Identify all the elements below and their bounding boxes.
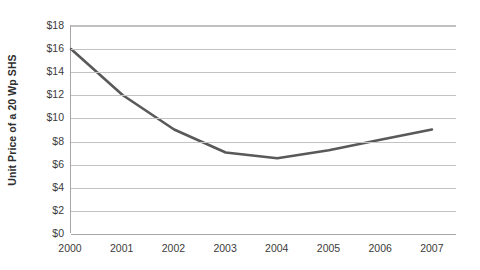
gridline — [71, 49, 456, 50]
y-tick-label: $8 — [52, 135, 64, 147]
plot-area — [70, 25, 456, 233]
y-axis-title: Unit Price of a 20 Wp SHS — [0, 0, 24, 240]
y-tick-label: $4 — [52, 181, 64, 193]
y-axis-title-text: Unit Price of a 20 Wp SHS — [6, 54, 18, 185]
gridline — [71, 165, 456, 166]
y-tick-label: $2 — [52, 204, 64, 216]
y-tick-label: $14 — [46, 65, 64, 77]
x-tick-label: 2004 — [265, 242, 288, 254]
gridline — [71, 95, 456, 96]
x-tick-label: 2001 — [110, 242, 133, 254]
x-tick-label: 2002 — [162, 242, 185, 254]
x-tick-label: 2005 — [317, 242, 340, 254]
x-axis-tick-labels: 20002001200220032004200520062007 — [70, 238, 456, 262]
chart-figure: Unit Price of a 20 Wp SHS $0$2$4$6$8$10$… — [0, 0, 480, 270]
gridline — [71, 234, 456, 235]
y-tick-label: $6 — [52, 158, 64, 170]
x-tick-label: 2006 — [368, 242, 391, 254]
gridline — [71, 188, 456, 189]
gridline — [71, 26, 456, 27]
y-tick-label: $16 — [46, 42, 64, 54]
gridline — [71, 118, 456, 119]
y-tick-label: $12 — [46, 88, 64, 100]
gridline — [71, 72, 456, 73]
gridline — [71, 211, 456, 212]
y-tick-label: $10 — [46, 111, 64, 123]
x-tick-label: 2007 — [420, 242, 443, 254]
y-tick-label: $18 — [46, 19, 64, 31]
x-tick-label: 2000 — [58, 242, 81, 254]
y-tick-label: $0 — [52, 227, 64, 239]
line-series — [71, 26, 456, 233]
x-tick-label: 2003 — [213, 242, 236, 254]
y-axis-tick-labels: $0$2$4$6$8$10$12$14$16$18 — [24, 0, 68, 270]
gridline — [71, 142, 456, 143]
